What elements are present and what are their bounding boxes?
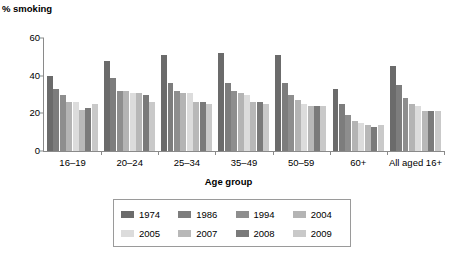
- bar: [320, 106, 326, 151]
- x-axis-tick-label: 16–19: [59, 157, 85, 168]
- x-axis-tick-mark: [330, 151, 331, 155]
- bar: [314, 106, 320, 151]
- legend-item-2005[interactable]: 2005: [121, 229, 178, 239]
- bar-group: [390, 38, 442, 151]
- bar: [149, 102, 155, 151]
- bar: [66, 102, 72, 151]
- bar: [161, 55, 167, 151]
- bar: [187, 93, 193, 151]
- legend-swatch-icon: [236, 211, 249, 218]
- legend-label: 2008: [254, 229, 275, 239]
- legend-label: 2007: [196, 229, 217, 239]
- legend-item-2007[interactable]: 2007: [178, 229, 235, 239]
- bar: [123, 91, 129, 151]
- bar: [250, 102, 256, 151]
- legend-swatch-icon: [178, 230, 191, 237]
- bar-group: [161, 38, 213, 151]
- legend-label: 1994: [254, 210, 275, 220]
- legend-row: 1974198619942004: [114, 205, 350, 224]
- bar: [390, 66, 396, 151]
- bar: [301, 104, 307, 151]
- legend-label: 1986: [196, 210, 217, 220]
- bar: [47, 76, 53, 151]
- bar: [263, 104, 269, 151]
- legend-row: 2005200720082009: [114, 224, 350, 243]
- y-axis-tick-label: 60: [29, 33, 40, 43]
- x-axis-tick-label: 35–49: [231, 157, 257, 168]
- bar: [352, 121, 358, 151]
- x-axis-tick-mark: [273, 151, 274, 155]
- bar: [275, 55, 281, 151]
- bar: [415, 106, 421, 151]
- legend-label: 2004: [311, 210, 332, 220]
- bar: [244, 95, 250, 152]
- bar: [92, 104, 98, 151]
- x-axis-tick-label: All aged 16+: [389, 157, 442, 168]
- bar: [110, 78, 116, 151]
- x-axis-tick-mark: [158, 151, 159, 155]
- bar: [358, 123, 364, 151]
- x-axis-tick-label: 60+: [350, 157, 366, 168]
- bar: [117, 91, 123, 151]
- bar-group: [47, 38, 99, 151]
- bar-group: [275, 38, 327, 151]
- plot-area: 0204060: [44, 38, 444, 151]
- y-axis-tick-mark: [40, 75, 44, 76]
- x-axis-tick-mark: [215, 151, 216, 155]
- bar: [435, 111, 441, 151]
- bar: [371, 127, 377, 151]
- y-axis-tick-mark: [40, 113, 44, 114]
- bar: [73, 102, 79, 151]
- y-axis-tick-mark: [40, 151, 44, 152]
- legend-item-2004[interactable]: 2004: [293, 210, 350, 220]
- x-axis-tick-label: 50–59: [288, 157, 314, 168]
- x-axis-tick-mark: [444, 151, 445, 155]
- bar: [403, 98, 409, 151]
- bar: [409, 104, 415, 151]
- legend-item-1994[interactable]: 1994: [236, 210, 293, 220]
- bar: [378, 125, 384, 151]
- legend-item-1974[interactable]: 1974: [121, 210, 178, 220]
- bar: [231, 91, 237, 151]
- bar: [218, 53, 224, 151]
- legend-label: 1974: [139, 210, 160, 220]
- legend-item-1986[interactable]: 1986: [178, 210, 235, 220]
- bar: [180, 93, 186, 151]
- y-axis-title: % smoking: [2, 3, 52, 14]
- y-axis-tick-label: 40: [29, 71, 40, 81]
- bar: [257, 102, 263, 151]
- bar: [193, 102, 199, 151]
- bar: [130, 93, 136, 151]
- bar: [206, 104, 212, 151]
- legend-item-2009[interactable]: 2009: [293, 229, 350, 239]
- bar: [295, 100, 301, 151]
- legend-item-2008[interactable]: 2008: [236, 229, 293, 239]
- bar: [79, 110, 85, 151]
- bar: [308, 106, 314, 151]
- legend-swatch-icon: [121, 230, 134, 237]
- y-axis-tick-mark: [40, 38, 44, 39]
- bar: [53, 89, 59, 151]
- legend-swatch-icon: [121, 211, 134, 218]
- bar: [428, 111, 434, 151]
- chart-container: % smoking 0204060 Age group 197419861994…: [0, 0, 457, 266]
- bar: [422, 111, 428, 151]
- x-axis-tick-mark: [101, 151, 102, 155]
- bar: [60, 95, 66, 152]
- legend-swatch-icon: [236, 230, 249, 237]
- bar: [365, 125, 371, 151]
- x-axis-title: Age group: [0, 176, 457, 187]
- x-axis-tick-label: 25–34: [174, 157, 200, 168]
- x-axis-tick-label: 20–24: [116, 157, 142, 168]
- legend-swatch-icon: [293, 211, 306, 218]
- x-axis-tick-mark: [387, 151, 388, 155]
- bar: [168, 83, 174, 151]
- y-axis-tick-label: 20: [29, 109, 40, 119]
- bar: [333, 89, 339, 151]
- bar: [104, 61, 110, 151]
- x-axis-line: [43, 151, 445, 152]
- bar: [200, 102, 206, 151]
- bar-group: [104, 38, 156, 151]
- bar: [345, 115, 351, 151]
- bar: [288, 95, 294, 152]
